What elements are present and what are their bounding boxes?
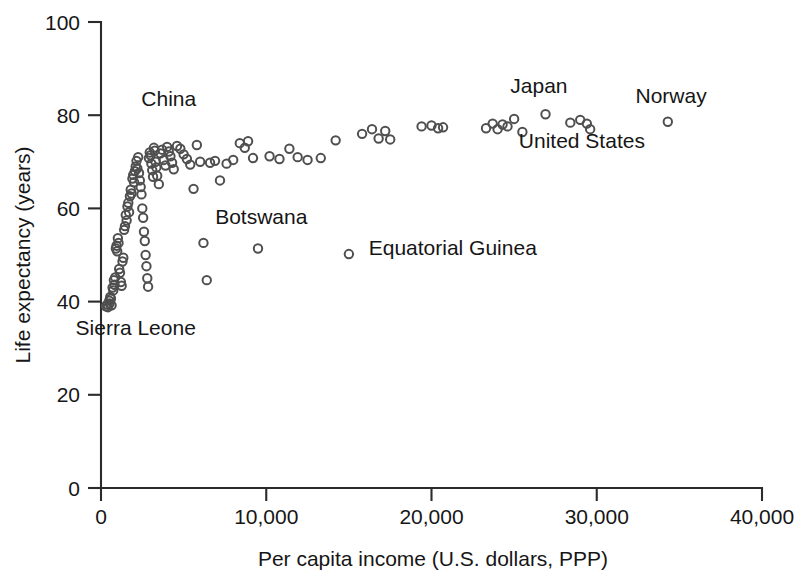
data-point [368,125,376,133]
point-annotations: ChinaSierra LeoneBotswanaEquatorial Guin… [76,74,708,339]
data-point [303,156,311,164]
data-point [143,274,151,282]
data-point [122,216,130,224]
data-point [358,130,366,138]
data-point [381,127,389,135]
x-tick-label-40000: 40,000 [730,505,794,528]
data-point [386,135,394,143]
annotation-botswana: Botswana [215,205,308,228]
x-axis-title: Per capita income (U.S. dollars, PPP) [258,547,608,570]
data-point [345,250,353,258]
data-point [254,244,262,252]
annotation-equatorial-guinea: Equatorial Guinea [369,236,537,259]
y-tick-label-0: 0 [68,477,80,500]
data-point [144,282,152,290]
data-point [138,204,146,212]
data-point [141,251,149,259]
x-tick-label-0: 0 [95,505,107,528]
x-tick-label-10000: 10,000 [234,505,298,528]
data-point [510,115,518,123]
y-tick-label-80: 80 [57,104,80,127]
data-point [293,153,301,161]
y-tick-label-40: 40 [57,290,80,313]
annotation-norway: Norway [636,84,708,107]
data-point [566,118,574,126]
data-point [189,185,197,193]
data-point [155,180,163,188]
data-point [199,239,207,247]
data-point [285,145,293,153]
data-point [142,262,150,270]
y-tick-label-20: 20 [57,383,80,406]
x-tick-label-30000: 30,000 [565,505,629,528]
x-tick-label-20000: 20,000 [399,505,463,528]
data-point [193,141,201,149]
data-point [331,136,339,144]
data-point [140,228,148,236]
annotation-china: China [141,87,196,110]
data-point [203,276,211,284]
data-point [275,155,283,163]
y-axis-title: Life expectancy (years) [11,146,34,363]
annotation-japan: Japan [510,74,567,97]
data-point [141,237,149,245]
annotation-sierra-leone: Sierra Leone [76,316,196,339]
data-point [417,122,425,130]
data-point [229,156,237,164]
plot-canvas: 020406080100010,00020,00030,00040,000 Ch… [0,0,804,579]
data-point [265,152,273,160]
data-point [541,110,549,118]
data-point [139,214,147,222]
annotation-united-states: United States [519,129,645,152]
y-tick-label-60: 60 [57,197,80,220]
data-point [196,158,204,166]
data-point [664,118,672,126]
y-tick-label-100: 100 [45,11,80,34]
data-point [216,176,224,184]
scatter-plot-figure: 020406080100010,00020,00030,00040,000 Ch… [0,0,804,579]
data-point [374,134,382,142]
data-point [317,154,325,162]
data-point [249,154,257,162]
